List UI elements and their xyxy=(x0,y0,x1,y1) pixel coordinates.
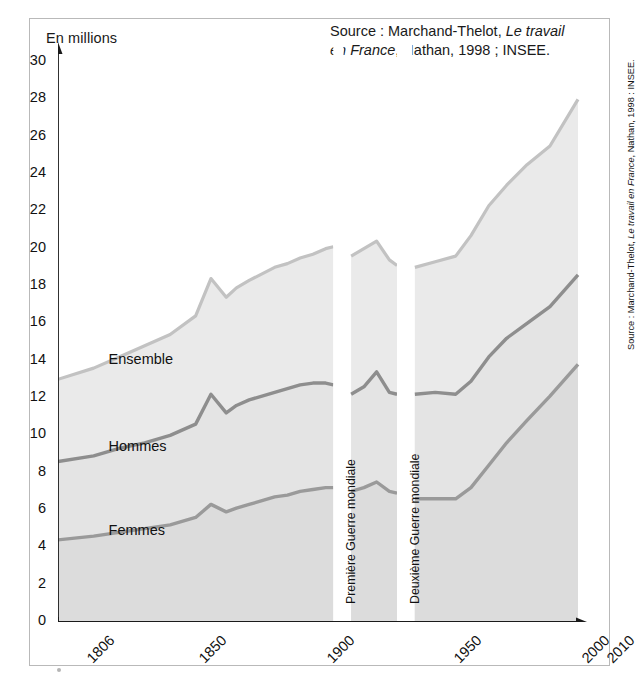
y-tick-label: 14 xyxy=(12,351,46,367)
annotation-war-1: Première Guerre mondiale xyxy=(344,459,358,604)
y-tick-label: 28 xyxy=(12,89,46,105)
y-tick-label: 12 xyxy=(12,388,46,404)
y-tick-label: 30 xyxy=(12,52,46,68)
source-text-italic1: Le travail xyxy=(506,23,565,39)
series-label-ensemble: Ensemble xyxy=(109,351,173,367)
y-tick-label: 20 xyxy=(12,239,46,255)
side-credit-part1: Source : Marchand-Thelot, xyxy=(626,239,636,350)
side-credit: Source : Marchand-Thelot, Le travail en … xyxy=(626,20,636,350)
chart-figure: En millions Source : Marchand-Thelot, Le… xyxy=(0,0,638,686)
plot-area: 0246810121416182022242628301806185019001… xyxy=(58,40,588,622)
y-tick-label: 8 xyxy=(12,463,46,479)
y-tick-label: 10 xyxy=(12,425,46,441)
series-label-femmes: Femmes xyxy=(109,522,165,538)
y-tick-label: 24 xyxy=(12,164,46,180)
y-tick-label: 4 xyxy=(12,537,46,553)
annotation-war-2: Deuxième Guerre mondiale xyxy=(408,454,422,604)
side-credit-part2: , Nathan, 1998 : INSEE. xyxy=(626,59,636,157)
side-credit-italic: Le travail en France xyxy=(626,157,636,238)
y-tick-label: 26 xyxy=(12,127,46,143)
y-tick-label: 22 xyxy=(12,201,46,217)
y-tick-label: 2 xyxy=(12,575,46,591)
decorative-dot xyxy=(57,668,61,672)
series-label-hommes: Hommes xyxy=(109,438,167,454)
y-tick-label: 6 xyxy=(12,500,46,516)
y-tick-label: 18 xyxy=(12,276,46,292)
y-tick-label: 16 xyxy=(12,313,46,329)
source-text-part1: Source : Marchand-Thelot, xyxy=(330,23,506,39)
y-tick-label: 0 xyxy=(12,612,46,628)
